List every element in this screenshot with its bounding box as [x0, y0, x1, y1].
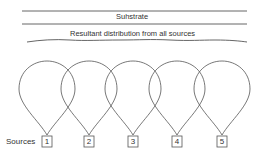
distribution-label: Resultant distribution from all sources	[70, 29, 195, 38]
emission-lobe-4	[149, 61, 205, 135]
source-number-4: 4	[172, 137, 182, 146]
deposition-diagram	[0, 0, 261, 157]
distribution-curve	[27, 40, 247, 42]
sources-label: Sources	[6, 137, 35, 146]
emission-lobe-5	[194, 61, 250, 135]
source-number-2: 2	[84, 137, 94, 146]
source-number-1: 1	[42, 137, 52, 146]
emission-lobes	[19, 61, 250, 135]
source-number-3: 3	[128, 137, 138, 146]
source-number-5: 5	[217, 137, 227, 146]
substrate-label: Suhstrate	[116, 12, 148, 21]
emission-lobe-3	[105, 61, 161, 135]
